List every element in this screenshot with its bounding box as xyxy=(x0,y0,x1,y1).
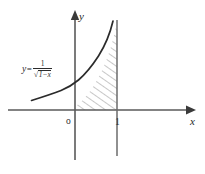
y-axis-label: y xyxy=(78,10,84,22)
x-tick-label-1: 1 xyxy=(115,117,120,127)
fraction-numerator: 1 xyxy=(39,60,47,68)
x-axis-label: x xyxy=(189,115,195,127)
radicand: 1−x xyxy=(38,70,51,79)
equation-lhs: y xyxy=(22,65,26,75)
equation-equals-sign: = xyxy=(27,65,32,74)
math-figure: o 1 x y xyxy=(0,0,205,174)
arrow-right-icon xyxy=(186,106,196,115)
radical-sign: √ xyxy=(34,70,38,78)
origin-label: o xyxy=(66,116,71,126)
figure-canvas: o 1 x y y = 1 √ 1−x xyxy=(0,0,205,174)
arrow-up-icon xyxy=(71,10,79,20)
fraction-denominator: √ 1−x xyxy=(33,69,53,79)
equation-fraction: 1 √ 1−x xyxy=(33,60,53,79)
square-root-icon: √ 1−x xyxy=(34,70,52,79)
function-equation-label: y = 1 √ 1−x xyxy=(22,60,52,79)
